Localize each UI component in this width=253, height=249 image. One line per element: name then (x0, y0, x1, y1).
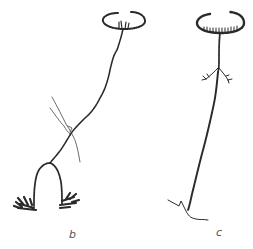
stalk-b (50, 29, 123, 163)
branchlet-left-c (202, 68, 218, 80)
stalk-upper-c (218, 33, 220, 72)
foot-left-b (14, 197, 36, 210)
drawing-canvas (0, 0, 253, 249)
figure-illustration: b c (0, 0, 253, 249)
organism-c (168, 12, 244, 220)
branchlet-right-c (219, 68, 232, 83)
panel-label-c: c (216, 227, 222, 238)
tentacle-ring-b (103, 12, 145, 29)
leg-left-b (34, 163, 50, 206)
foot-right-b (60, 193, 79, 208)
stalk-lower-c (188, 72, 218, 210)
organism-b (14, 12, 145, 210)
tentacles-b (119, 21, 129, 29)
leg-right-b (50, 163, 62, 205)
panel-label-b: b (69, 229, 76, 240)
